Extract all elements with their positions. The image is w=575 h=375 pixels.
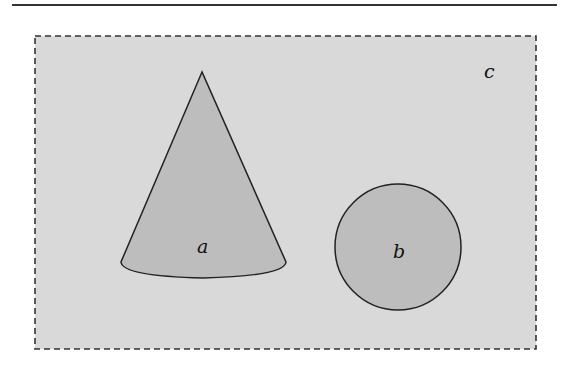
cone-label-a: a [197, 235, 208, 257]
universe-region [35, 36, 536, 349]
region-label-c: c [484, 60, 495, 82]
venn-diagram: c a b [0, 0, 575, 375]
circle-label-b: b [393, 240, 405, 262]
